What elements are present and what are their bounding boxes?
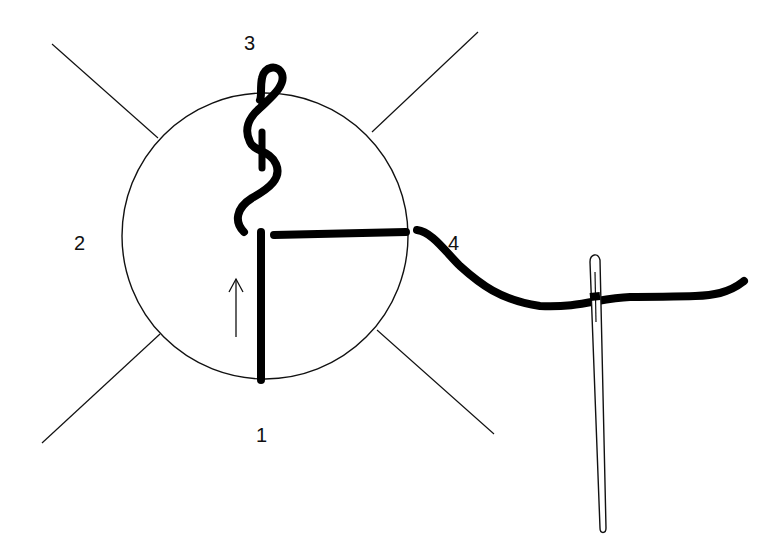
twisted-loop-thread [238, 68, 283, 232]
label-point-2: 2 [74, 232, 85, 254]
horizontal-thread [274, 232, 406, 235]
stitch-diagram: 3 2 1 4 [0, 0, 783, 546]
trailing-thread [417, 230, 744, 306]
direction-arrow-icon [229, 279, 243, 337]
label-point-4: 4 [448, 232, 459, 254]
label-point-1: 1 [256, 424, 267, 446]
diagram-canvas: 3 2 1 4 [0, 0, 783, 546]
label-point-3: 3 [244, 32, 255, 54]
